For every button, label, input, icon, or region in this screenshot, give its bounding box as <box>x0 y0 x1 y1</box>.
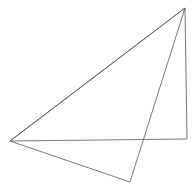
background <box>0 0 195 196</box>
line-diagram <box>0 0 195 196</box>
